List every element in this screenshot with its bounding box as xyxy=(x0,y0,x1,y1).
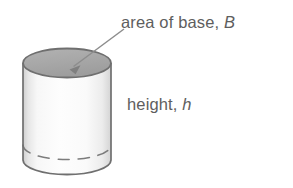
label-height: height, h xyxy=(127,96,192,113)
cylinder-diagram: area of base, B height, h xyxy=(0,0,293,188)
cylinder-body xyxy=(23,63,111,175)
label-area-of-base: area of base, B xyxy=(121,14,235,31)
label-area-of-base-text: area of base, xyxy=(121,13,224,31)
cylinder-top-face xyxy=(23,49,111,78)
label-height-variable: h xyxy=(182,95,191,113)
label-height-text: height, xyxy=(127,95,182,113)
label-area-of-base-variable: B xyxy=(224,13,235,31)
